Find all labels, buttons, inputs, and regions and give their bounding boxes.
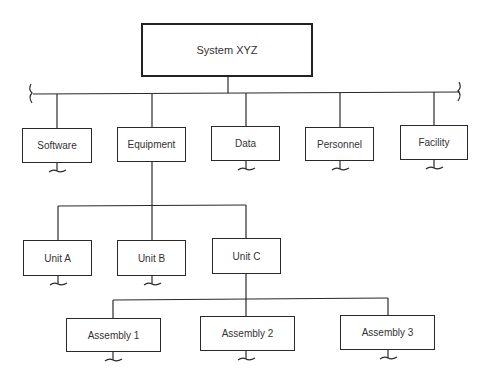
node-software: Software	[22, 128, 92, 163]
node-facility: Facility	[400, 125, 468, 160]
node-label: Assembly 1	[88, 330, 140, 341]
node-unit-a: Unit A	[23, 240, 92, 276]
node-unit-c: Unit C	[212, 238, 281, 274]
node-label: Data	[235, 138, 256, 149]
node-label: System XYZ	[196, 44, 257, 56]
node-label: Unit B	[138, 253, 165, 264]
node-equipment: Equipment	[117, 127, 186, 162]
node-label: Unit A	[44, 253, 71, 264]
node-label: Facility	[418, 137, 449, 148]
node-assembly-2: Assembly 2	[200, 316, 295, 351]
node-label: Assembly 3	[362, 327, 414, 338]
node-label: Equipment	[128, 139, 176, 150]
node-assembly-3: Assembly 3	[340, 315, 435, 350]
node-assembly-1: Assembly 1	[66, 318, 161, 352]
node-unit-b: Unit B	[117, 240, 186, 276]
left-brace-break-icon	[30, 84, 32, 103]
node-label: Software	[37, 140, 76, 151]
node-label: Assembly 2	[222, 328, 274, 339]
node-label: Personnel	[317, 139, 362, 150]
node-label: Unit C	[233, 251, 261, 262]
node-personnel: Personnel	[305, 127, 374, 161]
node-system-xyz: System XYZ	[141, 23, 313, 77]
node-data: Data	[211, 126, 280, 161]
